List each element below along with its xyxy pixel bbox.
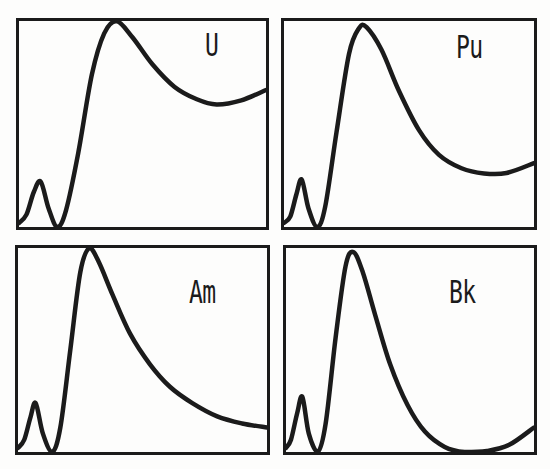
curve-svg-pu bbox=[284, 21, 534, 227]
panel-bk: Bk bbox=[283, 245, 537, 455]
panel-label-pu: Pu bbox=[456, 31, 482, 63]
panel-u: U bbox=[16, 18, 269, 230]
four-panel-spectra-figure: U Pu Am Bk bbox=[0, 0, 550, 469]
panel-label-u: U bbox=[205, 29, 218, 61]
panel-am: Am bbox=[15, 245, 270, 455]
spectrum-curve-u bbox=[19, 21, 266, 227]
panel-label-bk: Bk bbox=[449, 276, 475, 308]
curve-svg-u bbox=[19, 21, 266, 227]
panel-label-am: Am bbox=[189, 276, 215, 308]
curve-svg-bk bbox=[286, 248, 534, 452]
curve-svg-am bbox=[18, 248, 267, 452]
spectrum-curve-pu bbox=[284, 25, 534, 227]
panel-pu: Pu bbox=[281, 18, 537, 230]
spectrum-curve-am bbox=[18, 248, 267, 452]
spectrum-curve-bk bbox=[286, 252, 534, 452]
